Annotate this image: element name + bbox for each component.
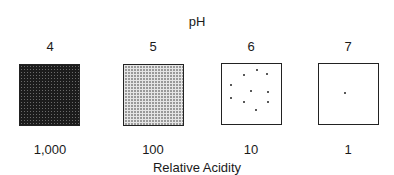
- acid-dot: [243, 74, 245, 76]
- acid-dot: [256, 69, 258, 71]
- ph-label-4: 4: [30, 40, 70, 54]
- acidity-value-ph5: 100: [123, 143, 183, 157]
- acid-dot: [267, 91, 269, 93]
- acidity-box-ph6: [221, 63, 282, 125]
- acid-dot: [250, 90, 252, 92]
- ph-label-7: 7: [328, 40, 368, 54]
- x-axis-label: Relative Acidity: [137, 161, 257, 175]
- acidity-box-ph5: [123, 64, 184, 126]
- acid-dot: [243, 101, 245, 103]
- acid-dot: [344, 92, 346, 94]
- ph-label-5: 5: [133, 40, 173, 54]
- acidity-value-ph6: 10: [221, 143, 281, 157]
- acid-dot: [266, 73, 268, 75]
- acidity-box-ph7: [318, 63, 379, 125]
- acid-dot: [230, 84, 232, 86]
- ph-label-6: 6: [231, 40, 271, 54]
- acidity-value-ph4: 1,000: [20, 143, 80, 157]
- acid-dot: [230, 97, 232, 99]
- acid-dot: [267, 101, 269, 103]
- acid-dot: [255, 109, 257, 111]
- acidity-box-ph4: [19, 64, 80, 126]
- acidity-value-ph7: 1: [318, 143, 378, 157]
- diagram-title: pH: [177, 15, 217, 29]
